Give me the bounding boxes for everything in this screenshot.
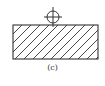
figure-caption: (c) [0, 63, 105, 72]
diagram-canvas [0, 0, 105, 86]
crosshair-circle-icon [44, 7, 62, 27]
hatched-block [0, 25, 105, 59]
